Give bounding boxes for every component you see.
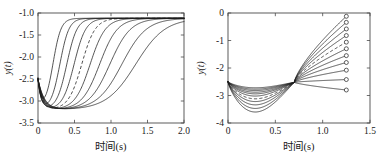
panel-right: 00.51.01.5-4-3-2-10时间(s)y(t) — [192, 0, 384, 165]
plot-frame — [228, 13, 370, 123]
y-tick-label: -1.0 — [19, 8, 34, 18]
curve-endpoint-marker — [344, 34, 348, 38]
x-axis-title: 时间(s) — [283, 140, 315, 153]
x-tick-label: 1.5 — [364, 126, 376, 136]
curve-endpoint-marker — [344, 47, 348, 51]
curve-endpoint-marker — [344, 20, 348, 24]
plot-frame — [38, 13, 184, 123]
curve-endpoint-marker — [344, 27, 348, 31]
y-tick-label: -1.5 — [19, 30, 34, 40]
y-tick-label: 0 — [219, 8, 224, 18]
x-tick-label: 2.0 — [178, 126, 190, 136]
curve-endpoint-marker — [344, 88, 348, 92]
data-curve — [38, 18, 184, 98]
x-tick-label: 0.5 — [69, 126, 81, 136]
two-panel-figure: 00.51.01.52.0-3.5-3.0-2.5-2.0-1.5-1.0时间(… — [0, 0, 384, 165]
x-tick-label: 1.0 — [105, 126, 117, 136]
y-tick-label: -3.0 — [19, 96, 34, 106]
y-tick-label: -3 — [216, 91, 224, 101]
y-tick-label: -1 — [216, 36, 224, 46]
y-tick-label: -4 — [216, 118, 224, 128]
curve-endpoint-marker — [344, 14, 348, 18]
x-tick-label: 0 — [36, 126, 41, 136]
x-tick-label: 1.5 — [142, 126, 154, 136]
curve-endpoint-marker — [344, 61, 348, 65]
y-tick-label: -3.5 — [19, 118, 34, 128]
panel-left-canvas: 00.51.01.52.0-3.5-3.0-2.5-2.0-1.5-1.0时间(… — [0, 0, 192, 165]
data-curve — [228, 36, 346, 102]
x-axis-title: 时间(s) — [95, 140, 127, 153]
data-curve — [228, 29, 346, 105]
curve-group — [228, 14, 348, 112]
curve-endpoint-marker — [344, 40, 348, 44]
curve-group — [38, 18, 184, 108]
x-tick-label: 0.5 — [269, 126, 281, 136]
x-tick-label: 0 — [226, 126, 231, 136]
y-axis-title: y(t) — [3, 61, 14, 75]
panel-left: 00.51.01.52.0-3.5-3.0-2.5-2.0-1.5-1.0时间(… — [0, 0, 192, 165]
y-axis-title: y(t) — [196, 61, 207, 75]
curve-endpoint-marker — [344, 54, 348, 58]
x-tick-label: 1.0 — [317, 126, 329, 136]
curve-endpoint-marker — [344, 68, 348, 72]
curve-endpoint-marker — [344, 78, 348, 82]
y-tick-label: -2 — [216, 63, 224, 73]
data-curve — [228, 22, 346, 108]
panel-right-canvas: 00.51.01.5-4-3-2-10时间(s)y(t) — [192, 0, 384, 165]
y-tick-label: -2.0 — [19, 52, 34, 62]
data-curve — [228, 16, 346, 112]
y-tick-label: -2.5 — [19, 74, 34, 84]
